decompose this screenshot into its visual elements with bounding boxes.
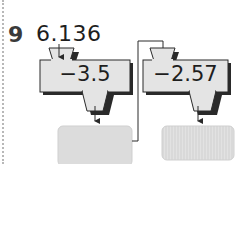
answer-box-2[interactable] bbox=[162, 126, 234, 160]
answer-box-1[interactable] bbox=[58, 126, 132, 164]
operation-label-2: −2.57 bbox=[143, 62, 228, 86]
operation-label-1: −3.5 bbox=[40, 62, 130, 86]
